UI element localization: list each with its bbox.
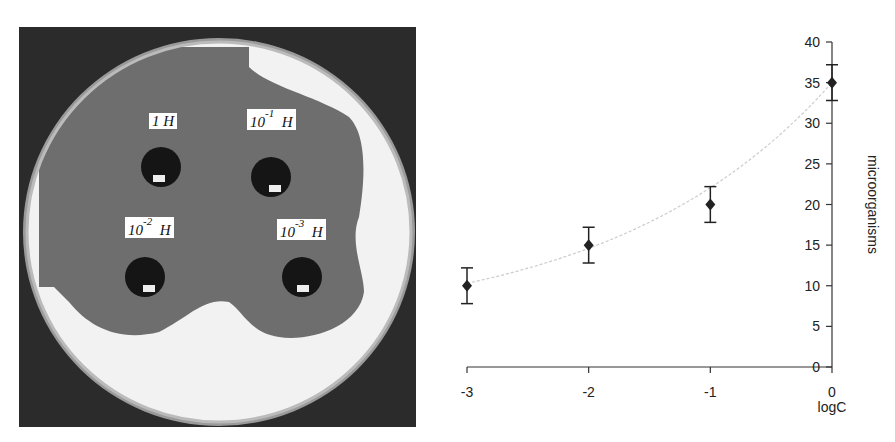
y-tick-label: 10 [804,278,820,294]
y-tick-label: 5 [812,318,820,334]
x-axis-label: logC [818,399,847,415]
y-tick-label: 30 [804,115,820,131]
trendline [467,83,832,284]
y-tick-label: 25 [804,156,820,172]
y-tick-label: 15 [804,237,820,253]
data-point-diamond [827,77,837,89]
data-point-diamond [462,280,472,292]
data-point-diamond [705,199,715,211]
y-axis-label: microorganisms [865,155,881,254]
y-tick-label: 40 [804,34,820,50]
y-tick-label: 35 [804,75,820,91]
y-tick-label: 0 [812,359,820,375]
x-tick-label: -1 [704,384,717,400]
data-point-diamond [584,239,594,251]
y-tick-label: 20 [804,197,820,213]
x-tick-label: 0 [828,384,836,400]
x-tick-label: -2 [582,384,595,400]
x-tick-label: -3 [461,384,474,400]
scatter-chart: -3-2-100510152025303540logCmicroorganism… [0,0,895,442]
